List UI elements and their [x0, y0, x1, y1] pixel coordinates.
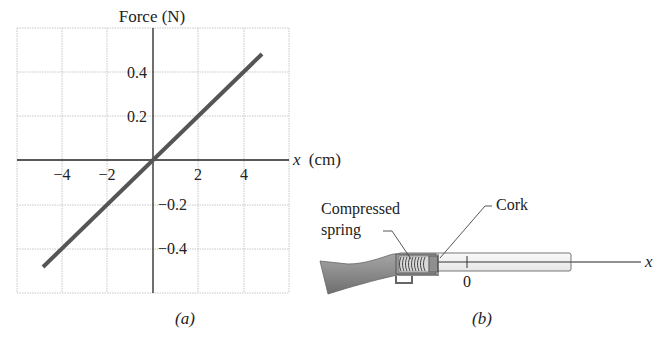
x-tick-2: 2 [194, 166, 202, 183]
caption-a: (a) [175, 309, 195, 328]
caption-b: (b) [472, 309, 492, 328]
x-axis-label: x (cm) [292, 150, 341, 169]
y-tick-neg0.2: −0.2 [158, 196, 187, 213]
x-tick-neg4: −4 [53, 166, 70, 183]
y-tick-0.2: 0.2 [127, 108, 147, 125]
figure-canvas: Force (N) x (cm) −4 −2 2 4 0.4 0.2 −0.2 … [0, 0, 661, 354]
x-axis-variable: x [292, 150, 301, 169]
compressed-spring-label-line2: spring [321, 221, 361, 239]
rifle-stock [320, 254, 398, 294]
y-tick-0.4: 0.4 [127, 64, 147, 81]
origin-label: 0 [463, 273, 471, 290]
cork [429, 256, 438, 272]
x-axis-unit: (cm) [309, 150, 341, 169]
cork-leader-line [440, 206, 492, 258]
x-tick-neg2: −2 [98, 166, 115, 183]
y-tick-neg0.4: −0.4 [158, 240, 187, 257]
y-axis-label: Force (N) [119, 7, 186, 26]
cork-label: Cork [496, 196, 528, 213]
compressed-spring-label-line1: Compressed [321, 200, 400, 218]
trigger-guard [396, 276, 412, 283]
cork-gun-illustration: Compressed spring Cork 0 x (b) [320, 196, 653, 328]
x-tick-4: 4 [240, 166, 248, 183]
force-graph: Force (N) x (cm) −4 −2 2 4 0.4 0.2 −0.2 … [17, 7, 341, 328]
gun-axis-label: x [644, 252, 653, 271]
